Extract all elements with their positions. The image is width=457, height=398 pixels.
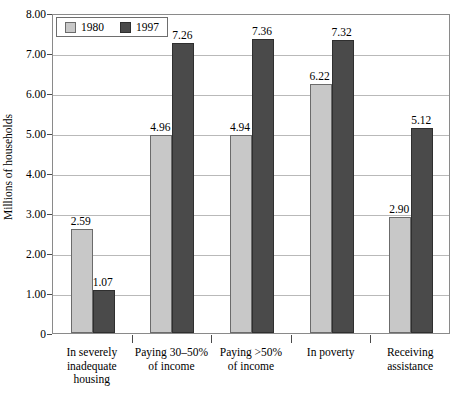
bar-1997-group-1	[93, 290, 115, 333]
bar-value-label: 5.12	[411, 114, 431, 126]
x-axis-category-label: Receiving assistance	[387, 346, 434, 373]
bar-1997-group-3	[252, 39, 274, 333]
bar-chart: Millions of households 01.002.003.004.00…	[0, 0, 457, 398]
legend-swatch-1997	[120, 22, 131, 33]
y-axis-tick-label: 7.00	[12, 48, 46, 60]
legend: 19801997	[56, 17, 168, 37]
bar-1997-group-4	[332, 40, 354, 333]
legend-label: 1980	[81, 21, 104, 33]
bar-1997-group-2	[172, 43, 194, 333]
y-axis-tick-label: 1.00	[12, 288, 46, 300]
bar-1980-group-5	[389, 217, 411, 333]
x-axis-category-label: Paying >50% of income	[220, 346, 282, 373]
y-axis-tick-label: 8.00	[12, 8, 46, 20]
bar-1980-group-4	[310, 84, 332, 333]
bar-1980-group-1	[71, 229, 93, 333]
y-axis-tick-label: 6.00	[12, 88, 46, 100]
legend-entry-1997: 1997	[120, 21, 159, 33]
x-axis-category-label: Paying 30–50% of income	[135, 346, 208, 373]
y-axis-tick-label: 4.00	[12, 168, 46, 180]
y-axis-tick-label: 2.00	[12, 248, 46, 260]
bar-value-label: 2.90	[389, 203, 409, 215]
legend-swatch-1980	[65, 22, 76, 33]
x-axis-tick-mark	[211, 335, 212, 343]
bar-value-label: 7.32	[332, 26, 352, 38]
gridline	[53, 95, 449, 96]
bar-1997-group-5	[411, 128, 433, 333]
gridline	[53, 55, 449, 56]
y-axis-tick-label: 5.00	[12, 128, 46, 140]
legend-label: 1997	[136, 21, 159, 33]
y-axis-tick-label: 0	[12, 328, 46, 340]
bar-value-label: 2.59	[71, 215, 91, 227]
bar-value-label: 4.94	[230, 121, 250, 133]
legend-entry-1980: 1980	[65, 21, 104, 33]
bar-value-label: 1.07	[93, 276, 113, 288]
y-axis-tick-mark	[47, 334, 52, 335]
x-axis-tick-mark	[132, 335, 133, 343]
bar-value-label: 6.22	[310, 70, 330, 82]
bar-1980-group-2	[150, 135, 172, 333]
x-axis-category-label: In severely inadequate housing	[66, 346, 117, 387]
y-axis-tick-label: 3.00	[12, 208, 46, 220]
bar-value-label: 7.36	[252, 25, 272, 37]
bar-value-label: 4.96	[150, 121, 170, 133]
x-axis-tick-mark	[291, 335, 292, 343]
x-axis-category-label: In poverty	[307, 346, 355, 360]
bar-value-label: 7.26	[172, 29, 192, 41]
x-axis-tick-mark	[370, 335, 371, 343]
bar-1980-group-3	[230, 135, 252, 333]
